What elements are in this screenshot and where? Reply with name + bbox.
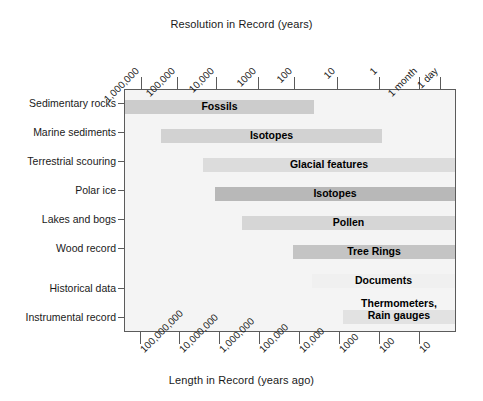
- bottom-axis-tick: [299, 332, 300, 344]
- category-label-instrumental-record: Instrumental record: [0, 311, 116, 323]
- top-axis-tick: [177, 77, 178, 89]
- top-axis-tick: [294, 77, 295, 89]
- category-axis-tick: [118, 219, 124, 220]
- chart-root: Resolution in Record (years) Length in R…: [0, 0, 483, 401]
- category-axis-tick: [118, 288, 124, 289]
- bar-label-documents: Documents: [274, 275, 483, 287]
- bottom-axis-tick: [259, 332, 260, 344]
- category-label-polar-ice: Polar ice: [0, 184, 116, 196]
- bar-label-line1: Thermometers,: [289, 298, 483, 310]
- top-axis-tick: [379, 77, 380, 89]
- bottom-axis-tick: [179, 332, 180, 344]
- category-label-terrestrial-scouring: Terrestrial scouring: [0, 155, 116, 167]
- category-axis-tick: [118, 161, 124, 162]
- category-label-historical-data: Historical data: [0, 282, 116, 294]
- bottom-axis-title: Length in Record (years ago): [0, 374, 483, 386]
- category-axis-tick: [118, 248, 124, 249]
- top-axis-tick: [216, 77, 217, 89]
- top-axis-tick: [440, 77, 441, 89]
- category-axis-tick: [118, 317, 124, 318]
- bar-label-pollen: Pollen: [239, 217, 459, 229]
- category-axis-tick: [118, 132, 124, 133]
- bottom-axis-tick: [140, 332, 141, 344]
- top-axis-tick: [141, 77, 142, 89]
- top-axis-tick: [337, 77, 338, 89]
- plot-frame: [124, 89, 456, 332]
- bar-label-glacial-features: Glacial features: [219, 159, 439, 171]
- top-axis-title: Resolution in Record (years): [0, 18, 483, 30]
- category-label-lakes-and-bogs: Lakes and bogs: [0, 213, 116, 225]
- category-axis-tick: [118, 190, 124, 191]
- bar-label-tree-rings: Tree Rings: [264, 246, 483, 258]
- bar-label-thermometers: Thermometers,Rain gauges: [289, 298, 483, 321]
- bar-label-line2: Rain gauges: [289, 310, 483, 322]
- bottom-axis-tick: [419, 332, 420, 344]
- bottom-axis-tick: [379, 332, 380, 344]
- category-label-marine-sediments: Marine sediments: [0, 126, 116, 138]
- bottom-axis-tick-label: 1000: [337, 331, 361, 355]
- bar-label-isotopes: Isotopes: [225, 188, 445, 200]
- bar-label-fossils: Fossils: [110, 101, 330, 113]
- category-label-sedimentary-rocks: Sedimentary rocks: [0, 97, 116, 109]
- bottom-axis-tick: [339, 332, 340, 344]
- category-label-wood-record: Wood record: [0, 242, 116, 254]
- bar-label-isotopes: Isotopes: [162, 130, 382, 142]
- top-axis-tick: [258, 77, 259, 89]
